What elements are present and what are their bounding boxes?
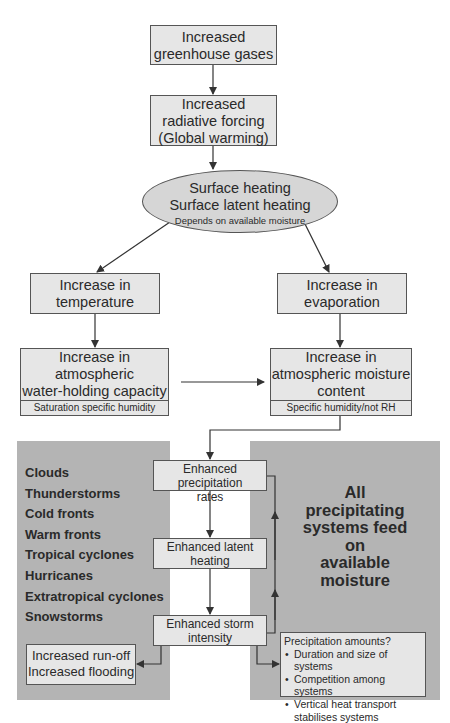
feed-line: All — [280, 484, 430, 502]
moisture-line3: content — [271, 383, 411, 400]
system-item: Extratropical cyclones — [25, 587, 164, 608]
system-item: Tropical cyclones — [25, 545, 164, 566]
capacity-line2: atmospheric — [21, 366, 168, 383]
evaporation-box: Increase in evaporation — [277, 273, 407, 314]
capacity-line3: water-holding capacity — [21, 383, 168, 400]
feed-line: precipitating — [280, 502, 430, 520]
feed-statement: All precipitating systems feed on availa… — [280, 484, 430, 589]
capacity-line1: Increase in — [21, 349, 168, 366]
system-item: Clouds — [25, 463, 164, 484]
forcing-line3: (Global warming) — [151, 130, 276, 147]
feed-line: moisture — [280, 572, 430, 590]
surface-note: Depends on available moisture — [143, 214, 337, 227]
forcing-line1: Increased — [151, 96, 276, 113]
runoff-flooding-box: Increased run-off Increased flooding — [26, 644, 136, 685]
latent-line1: Enhanced latent — [154, 540, 266, 554]
precipitation-rates-box: Enhanced precipitation rates — [153, 460, 267, 491]
amounts-bullet: Vertical heat transport stabilises syste… — [284, 698, 422, 723]
temperature-box: Increase in temperature — [30, 273, 160, 314]
storm-line2: intensity — [154, 631, 266, 645]
feed-line: available — [280, 554, 430, 572]
radiative-forcing-box: Increased radiative forcing (Global warm… — [150, 95, 277, 146]
greenhouse-line2: greenhouse gases — [151, 46, 276, 63]
greenhouse-line1: Increased — [151, 29, 276, 46]
storm-line1: Enhanced storm — [154, 617, 266, 631]
runoff-line2: Increased flooding — [27, 664, 135, 680]
greenhouse-gases-box: Increased greenhouse gases — [150, 25, 277, 65]
system-item: Cold fronts — [25, 504, 164, 525]
precipitating-systems-list: Clouds Thunderstorms Cold fronts Warm fr… — [25, 463, 164, 628]
forcing-line2: radiative forcing — [151, 113, 276, 130]
latent-line2: heating — [154, 554, 266, 568]
surface-heating-ellipse: Surface heating Surface latent heating D… — [142, 170, 338, 233]
storm-intensity-box: Enhanced storm intensity — [153, 615, 267, 646]
system-item: Thunderstorms — [25, 484, 164, 505]
temperature-line2: temperature — [31, 294, 159, 311]
precip-line2: rates — [154, 490, 266, 504]
feed-line: on — [280, 537, 430, 555]
precip-line1: Enhanced precipitation — [154, 462, 266, 490]
system-item: Snowstorms — [25, 607, 164, 628]
moisture-sub: Specific humidity/not RH — [271, 400, 411, 415]
surface-line2: Surface latent heating — [143, 197, 337, 214]
amounts-bullets: Duration and size of systems Competition… — [284, 648, 422, 723]
amounts-bullet: Duration and size of systems — [284, 648, 422, 673]
water-holding-capacity-box: Increase in atmospheric water-holding ca… — [20, 348, 169, 416]
runoff-line1: Increased run-off — [27, 648, 135, 664]
latent-heating-box: Enhanced latent heating — [153, 538, 267, 569]
moisture-content-box: Increase in atmospheric moisture content… — [270, 348, 412, 416]
moisture-line2: atmospheric moisture — [271, 366, 411, 383]
temperature-line1: Increase in — [31, 277, 159, 294]
feed-line: systems feed — [280, 519, 430, 537]
amounts-title: Precipitation amounts? — [284, 635, 422, 648]
capacity-sub: Saturation specific humidity — [21, 400, 168, 415]
moisture-line1: Increase in — [271, 349, 411, 366]
surface-line1: Surface heating — [143, 180, 337, 197]
evaporation-line2: evaporation — [278, 294, 406, 311]
system-item: Hurricanes — [25, 566, 164, 587]
evaporation-line1: Increase in — [278, 277, 406, 294]
precipitation-amounts-box: Precipitation amounts? Duration and size… — [280, 632, 426, 697]
amounts-bullet: Competition among systems — [284, 673, 422, 698]
system-item: Warm fronts — [25, 525, 164, 546]
